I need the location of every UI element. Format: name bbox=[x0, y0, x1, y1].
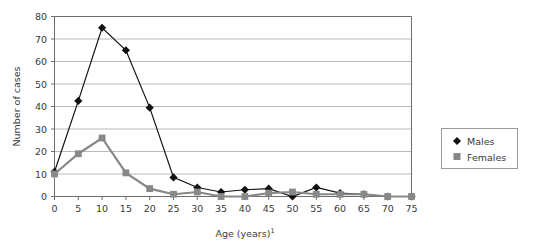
y-tick-label: 30 bbox=[35, 124, 47, 135]
x-tick-label: 45 bbox=[263, 203, 275, 214]
y-axis-tick-labels: 80 70 60 50 40 30 20 10 0 bbox=[35, 11, 47, 202]
y-axis-title: Number of cases bbox=[11, 66, 22, 146]
chart-figure: 80 70 60 50 40 30 20 10 0 Number of case… bbox=[0, 0, 538, 250]
x-tick-label: 15 bbox=[120, 203, 132, 214]
square-marker bbox=[218, 193, 225, 200]
square-marker bbox=[265, 190, 272, 197]
x-axis-title-text: Age (years) bbox=[215, 228, 270, 239]
square-marker bbox=[194, 189, 201, 196]
x-tick-label: 30 bbox=[191, 203, 203, 214]
y-tick-label: 50 bbox=[35, 79, 47, 90]
y-tick-label: 0 bbox=[41, 191, 47, 202]
legend: Males Females bbox=[442, 129, 518, 169]
x-tick-label: 20 bbox=[144, 203, 156, 214]
x-tick-label: 60 bbox=[334, 203, 346, 214]
x-tick-label: 70 bbox=[382, 203, 394, 214]
square-marker bbox=[51, 171, 58, 178]
legend-label-males: Males bbox=[467, 136, 495, 147]
y-tick-label: 60 bbox=[35, 56, 47, 67]
square-marker bbox=[384, 193, 391, 200]
y-tick-label: 70 bbox=[35, 34, 47, 45]
legend-label-females: Females bbox=[467, 152, 506, 163]
square-marker bbox=[75, 150, 82, 157]
square-marker bbox=[170, 191, 177, 198]
x-tick-label: 25 bbox=[167, 203, 179, 214]
x-axis-tick-labels: 0 5 10 15 20 25 30 35 40 45 50 55 60 65 … bbox=[51, 203, 417, 214]
x-tick-label: 35 bbox=[215, 203, 227, 214]
square-marker bbox=[361, 191, 368, 198]
legend-square-marker bbox=[454, 153, 461, 160]
legend-box bbox=[442, 129, 518, 169]
x-tick-label: 40 bbox=[239, 203, 251, 214]
x-axis-title-superscript: 1 bbox=[270, 227, 274, 235]
square-marker bbox=[242, 193, 249, 200]
y-tick-label: 80 bbox=[35, 11, 47, 22]
line-chart: 80 70 60 50 40 30 20 10 0 Number of case… bbox=[0, 0, 538, 250]
x-tick-label: 75 bbox=[405, 203, 417, 214]
x-tick-label: 55 bbox=[310, 203, 322, 214]
square-marker bbox=[123, 169, 130, 176]
y-tick-label: 40 bbox=[35, 101, 47, 112]
y-tick-label: 20 bbox=[35, 146, 47, 157]
square-marker bbox=[313, 191, 320, 198]
square-marker bbox=[289, 189, 296, 196]
square-marker bbox=[408, 193, 415, 200]
x-tick-label: 5 bbox=[75, 203, 81, 214]
x-tick-label: 10 bbox=[96, 203, 108, 214]
x-axis-title: Age (years)1 bbox=[215, 227, 274, 239]
square-marker bbox=[146, 185, 153, 192]
x-tick-label: 65 bbox=[358, 203, 370, 214]
y-tick-label: 10 bbox=[35, 169, 47, 180]
x-tick-label: 50 bbox=[286, 203, 298, 214]
square-marker bbox=[99, 135, 106, 142]
x-tick-label: 0 bbox=[51, 203, 57, 214]
square-marker bbox=[337, 191, 344, 198]
